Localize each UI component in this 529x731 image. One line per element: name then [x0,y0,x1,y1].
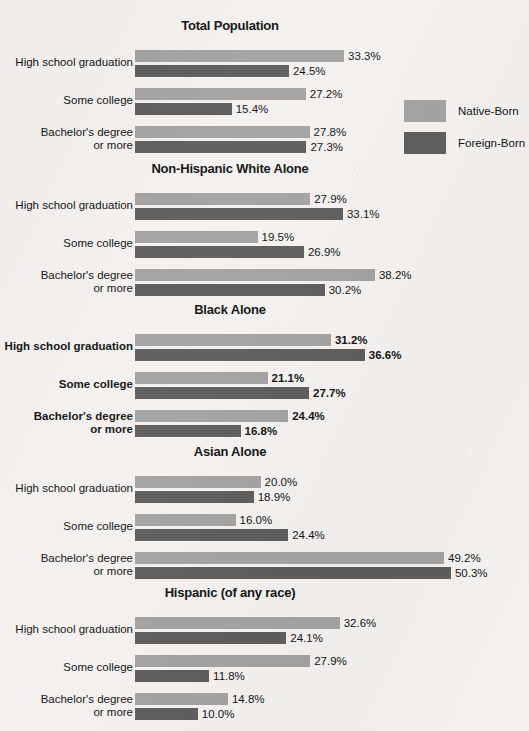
panel-title: Black Alone [0,302,460,317]
bar-row-foreign: 27.3% [135,141,343,153]
bar-value-native: 20.0% [261,476,298,488]
bar-group-label: Bachelor's degreeor more [0,126,133,152]
bar-group-label: High school graduation [0,199,133,212]
bar-foreign[interactable] [135,387,309,399]
bar-group-label: High school graduation [0,482,133,495]
bar-value-foreign: 10.0% [198,708,235,720]
bar-native[interactable] [135,50,344,62]
bar-foreign[interactable] [135,208,343,220]
bar-row-foreign: 24.4% [135,529,325,541]
legend-label: Native-Born [458,105,519,118]
bar-group-label-line1: Bachelor's degree [0,693,133,706]
chart-panel: Asian AloneHigh school graduation20.0%18… [0,444,529,461]
bar-value-foreign: 15.4% [232,103,269,115]
bar-native[interactable] [135,693,228,705]
bar-value-foreign: 50.3% [451,567,488,579]
bar-value-native: 32.6% [340,617,377,629]
bar-row-foreign: 30.2% [135,284,361,296]
bar-foreign[interactable] [135,529,288,541]
bar-native[interactable] [135,126,310,138]
bar-foreign[interactable] [135,491,254,503]
bar-group-label-line2: or more [0,423,133,436]
bar-foreign[interactable] [135,103,232,115]
bar-group-label: Some college [0,520,133,533]
bar-native[interactable] [135,372,268,384]
legend-item[interactable]: Foreign-Born [404,132,524,164]
bar-native[interactable] [135,655,310,667]
bar-value-foreign: 33.1% [343,208,380,220]
bar-group: High school graduation27.9%33.1% [0,193,529,231]
bar-group-label: Some college [0,378,133,391]
bar-group: Some college27.9%11.8% [0,655,529,693]
bar-group-label: Bachelor's degreeor more [0,269,133,295]
bar-value-native: 49.2% [444,552,481,564]
chart-panel: Total PopulationHigh school graduation33… [0,18,529,35]
bar-group: Some college16.0%24.4% [0,514,529,552]
bar-group: High school graduation33.3%24.5% [0,50,529,88]
bar-native[interactable] [135,514,236,526]
bar-foreign[interactable] [135,65,289,77]
bar-group-label: High school graduation [0,340,133,353]
panel-title: Hispanic (of any race) [0,585,460,600]
bar-value-foreign: 24.1% [286,632,323,644]
bar-row-foreign: 24.1% [135,632,323,644]
bar-group-label: Some college [0,661,133,674]
bar-value-native: 24.4% [288,410,325,422]
bar-native[interactable] [135,410,288,422]
panel-title: Total Population [0,18,460,33]
bar-row-foreign: 24.5% [135,65,326,77]
bar-value-foreign: 11.8% [209,670,245,682]
bar-row-native: 27.2% [135,88,342,100]
bar-group-label-line1: Bachelor's degree [0,126,133,139]
bar-value-native: 33.3% [344,50,381,62]
bar-value-native: 19.5% [258,231,295,243]
bar-value-native: 27.9% [310,193,347,205]
bar-row-native: 38.2% [135,269,412,281]
legend-item[interactable]: Native-Born [404,100,524,132]
bar-group-label: Bachelor's degreeor more [0,693,133,719]
bar-group-label-line2: or more [0,706,133,719]
bar-native[interactable] [135,552,444,564]
bar-row-native: 24.4% [135,410,325,422]
bar-value-native: 31.2% [331,334,368,346]
bar-group-label: Some college [0,237,133,250]
legend-swatch-native [404,100,446,122]
bar-group-label-line1: Bachelor's degree [0,269,133,282]
bar-native[interactable] [135,193,310,205]
bar-foreign[interactable] [135,349,365,361]
chart-panel: Hispanic (of any race)High school gradua… [0,585,529,602]
bar-row-foreign: 15.4% [135,103,268,115]
bar-foreign[interactable] [135,141,306,153]
bar-foreign[interactable] [135,284,325,296]
bar-row-native: 14.8% [135,693,265,705]
bar-foreign[interactable] [135,670,209,682]
bar-native[interactable] [135,88,306,100]
bar-group-label-line2: or more [0,282,133,295]
bar-native[interactable] [135,269,375,281]
bar-foreign[interactable] [135,632,286,644]
bar-foreign[interactable] [135,567,451,579]
bar-native[interactable] [135,334,331,346]
panel-title: Non-Hispanic White Alone [0,161,460,176]
bar-value-native: 27.8% [310,126,347,138]
bar-row-native: 21.1% [135,372,304,384]
bar-group-label-line1: Bachelor's degree [0,410,133,423]
bar-foreign[interactable] [135,246,304,258]
bar-row-native: 27.9% [135,193,347,205]
bar-native[interactable] [135,231,258,243]
bar-value-foreign: 24.5% [289,65,326,77]
bar-row-native: 19.5% [135,231,294,243]
bar-foreign[interactable] [135,425,241,437]
bar-group-label-line2: or more [0,565,133,578]
bar-value-native: 38.2% [375,269,412,281]
bar-row-native: 49.2% [135,552,481,564]
bar-value-foreign: 36.6% [365,349,402,361]
bar-row-foreign: 50.3% [135,567,488,579]
bar-group-label: Bachelor's degreeor more [0,410,133,436]
bar-group: Some college19.5%26.9% [0,231,529,269]
bar-foreign[interactable] [135,708,198,720]
bar-native[interactable] [135,617,340,629]
bar-value-foreign: 27.3% [306,141,343,153]
bar-native[interactable] [135,476,261,488]
bar-group: Bachelor's degreeor more14.8%10.0% [0,693,529,731]
